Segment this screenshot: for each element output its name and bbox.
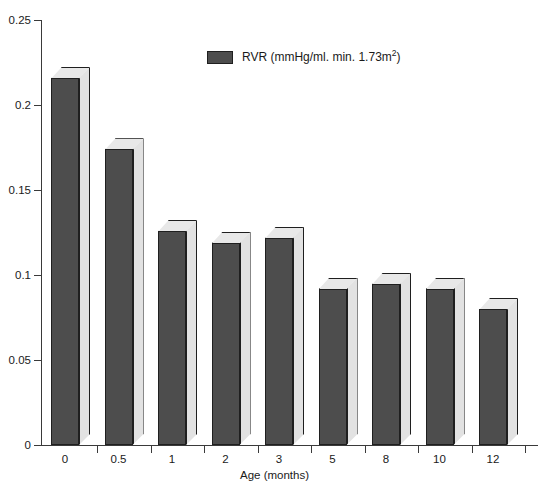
x-axis-tick-label: 1 bbox=[169, 453, 175, 465]
x-axis-tick-mark bbox=[97, 446, 98, 453]
bar-side-face bbox=[133, 138, 144, 445]
bar-side-face bbox=[240, 232, 251, 445]
legend-swatch-rvr bbox=[207, 51, 233, 64]
x-axis-tick-label: 5 bbox=[329, 453, 335, 465]
bar bbox=[265, 227, 304, 445]
bar-front-face bbox=[372, 284, 400, 446]
x-axis-tick-mark bbox=[311, 446, 312, 453]
bar bbox=[479, 298, 518, 445]
x-axis-tick-mark bbox=[258, 446, 259, 453]
x-axis-tick-mark bbox=[151, 446, 152, 453]
x-axis-tick-label: 12 bbox=[487, 453, 500, 465]
legend: RVR (mmHg/ml. min. 1.73m2) bbox=[207, 50, 401, 64]
x-axis-tick-label: 10 bbox=[433, 453, 446, 465]
bar bbox=[319, 278, 358, 445]
x-axis-tick-label: 0.5 bbox=[111, 453, 127, 465]
bar-front-face bbox=[426, 289, 454, 445]
x-axis-tick-label: 8 bbox=[383, 453, 389, 465]
x-axis-tick-mark bbox=[418, 446, 419, 453]
bar-front-face bbox=[105, 149, 133, 445]
bar bbox=[372, 273, 411, 446]
x-axis-tick-mark bbox=[525, 446, 526, 453]
y-axis-tick-label: 0.15 bbox=[9, 184, 31, 196]
bar-side-face bbox=[186, 220, 197, 445]
x-axis-tick-mark bbox=[204, 446, 205, 453]
bar bbox=[212, 232, 251, 445]
bar bbox=[158, 220, 197, 445]
bar-front-face bbox=[51, 78, 79, 445]
legend-label-tail: ) bbox=[397, 50, 401, 64]
bar-side-face bbox=[79, 67, 90, 445]
x-axis-line bbox=[41, 445, 538, 446]
y-axis-tick-label: 0.05 bbox=[9, 354, 31, 366]
x-axis-tick-label: 2 bbox=[222, 453, 228, 465]
x-axis-tick-mark bbox=[365, 446, 366, 453]
y-axis-tick-label: 0 bbox=[25, 439, 31, 451]
y-axis-tick-mark bbox=[34, 275, 42, 276]
x-axis-tick-label: 3 bbox=[276, 453, 282, 465]
legend-label-rvr: RVR (mmHg/ml. min. 1.73m2) bbox=[242, 50, 401, 64]
x-axis-tick-mark bbox=[472, 446, 473, 453]
y-axis-tick-mark bbox=[34, 360, 42, 361]
bar-chart: 00.050.10.150.20.25 00.5123581012 RVR (m… bbox=[0, 0, 549, 487]
y-axis-tick-mark bbox=[34, 20, 42, 21]
bar bbox=[51, 67, 90, 445]
bar bbox=[105, 138, 144, 445]
y-axis-tick-mark bbox=[34, 105, 42, 106]
bar-series bbox=[0, 0, 549, 487]
bar bbox=[426, 278, 465, 445]
bar-front-face bbox=[265, 238, 293, 445]
y-axis-tick-label: 0.2 bbox=[15, 99, 31, 111]
bar-side-face bbox=[454, 278, 465, 445]
bar-front-face bbox=[212, 243, 240, 445]
x-axis-title: Age (months) bbox=[0, 469, 549, 481]
y-axis-tick-label: 0.1 bbox=[15, 269, 31, 281]
y-axis-tick-mark bbox=[34, 190, 42, 191]
y-axis-line bbox=[41, 20, 42, 446]
legend-label-main: RVR (mmHg/ml. min. 1.73m bbox=[242, 50, 392, 64]
bar-front-face bbox=[479, 309, 507, 445]
bar-side-face bbox=[507, 298, 518, 445]
bar-front-face bbox=[319, 289, 347, 445]
y-axis-tick-label: 0.25 bbox=[9, 14, 31, 26]
bar-side-face bbox=[347, 278, 358, 445]
bar-front-face bbox=[158, 231, 186, 445]
bar-side-face bbox=[293, 227, 304, 445]
bar-side-face bbox=[400, 273, 411, 446]
x-axis-tick-label: 0 bbox=[62, 453, 68, 465]
